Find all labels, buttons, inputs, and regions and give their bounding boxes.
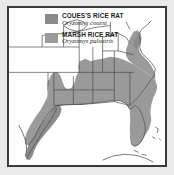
legend-entry-marsh: MARSH RICE RAT Oryzomys palustris <box>45 32 127 46</box>
range-map-figure: COUES'S RICE RAT Oryzomys couesi MARSH R… <box>0 0 174 175</box>
legend-text-coues: COUES'S RICE RAT Oryzomys couesi <box>62 13 127 27</box>
legend-swatch-marsh <box>45 33 58 43</box>
map-legend: COUES'S RICE RAT Oryzomys couesi MARSH R… <box>45 13 127 50</box>
map-frame: COUES'S RICE RAT Oryzomys couesi MARSH R… <box>7 6 167 167</box>
legend-scientific-name-marsh: Oryzomys palustris <box>62 38 127 45</box>
legend-entry-coues: COUES'S RICE RAT Oryzomys couesi <box>45 13 127 27</box>
legend-scientific-name-coues: Oryzomys couesi <box>62 20 127 27</box>
legend-text-marsh: MARSH RICE RAT Oryzomys palustris <box>62 32 127 46</box>
legend-swatch-coues <box>45 14 58 24</box>
